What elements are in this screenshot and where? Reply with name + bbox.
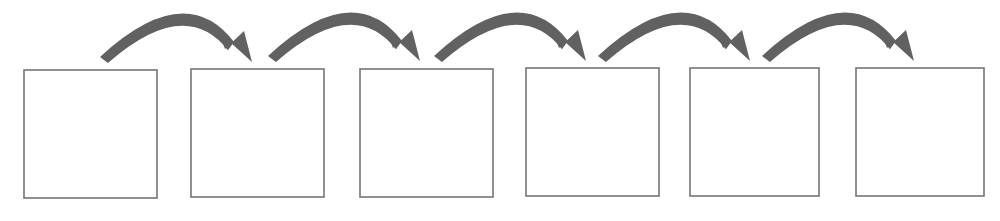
flow-arrow-4-shaft: [598, 13, 732, 62]
flow-arrow-4: [598, 13, 750, 62]
step-box-3[interactable]: [360, 69, 493, 197]
arrow-layer: [100, 13, 914, 63]
step-box-1[interactable]: [24, 70, 157, 198]
flow-arrow-1-shaft: [100, 14, 234, 63]
step-box-5[interactable]: [690, 68, 819, 196]
flow-arrow-2: [268, 13, 420, 62]
flow-arrow-1: [100, 14, 252, 63]
flow-arrow-5: [762, 13, 914, 62]
flow-arrow-2-shaft: [268, 13, 402, 62]
process-flow-diagram: [0, 0, 1000, 221]
flow-arrow-3-shaft: [434, 13, 568, 62]
step-box-2[interactable]: [191, 69, 324, 197]
diagram-canvas: [0, 0, 1000, 221]
flow-arrow-5-shaft: [762, 13, 896, 62]
step-box-6[interactable]: [856, 68, 984, 196]
box-layer: [24, 68, 984, 198]
flow-arrow-3: [434, 13, 586, 62]
step-box-4[interactable]: [526, 68, 659, 196]
